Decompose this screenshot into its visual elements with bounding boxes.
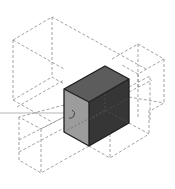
ghost-box-lower-left — [19, 105, 64, 173]
solid-box — [64, 66, 129, 146]
isometric-diagram — [0, 0, 175, 189]
